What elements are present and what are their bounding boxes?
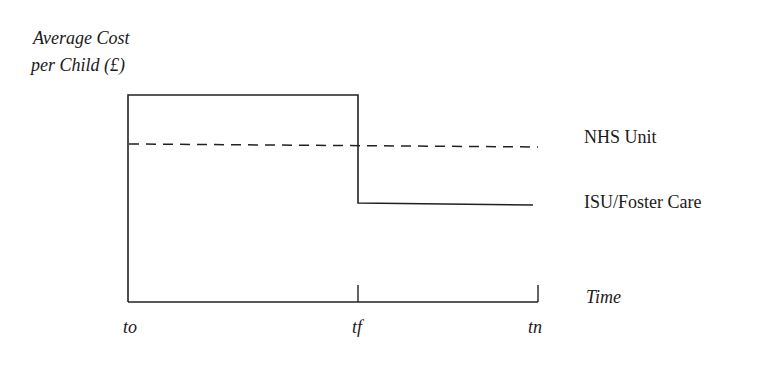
isu-foster-care-line xyxy=(128,95,533,302)
nhs-unit-label: NHS Unit xyxy=(584,127,657,148)
tick-label-tf: tf xyxy=(352,317,362,338)
x-axis-label: Time xyxy=(586,287,621,308)
tick-label-tn: tn xyxy=(528,317,542,338)
isu-foster-care-label: ISU/Foster Care xyxy=(584,192,701,213)
nhs-unit-line xyxy=(129,144,538,147)
tick-label-to: to xyxy=(123,317,137,338)
step-chart xyxy=(0,0,761,369)
